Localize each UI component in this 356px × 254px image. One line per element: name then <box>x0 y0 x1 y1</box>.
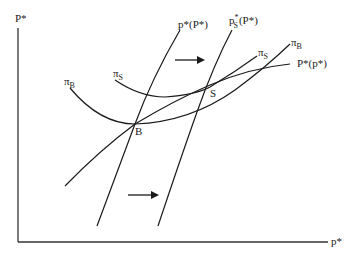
point-S-label: S <box>210 88 216 99</box>
pi-S-left-label: πS <box>113 68 123 79</box>
subscript: B <box>70 81 75 90</box>
label-sub: S <box>234 21 238 30</box>
subscript: B <box>297 42 302 51</box>
pi-symbol: π <box>64 75 70 87</box>
pi-S-right-label: πS <box>258 47 268 58</box>
point-B-label: B <box>135 126 142 137</box>
subscript: S <box>119 73 123 82</box>
p-S-star-of-P-star-label: p*S(P*) <box>229 15 262 26</box>
x-axis-label: p* <box>331 236 342 247</box>
P-star-of-p-star-label: P*(p*) <box>297 58 327 69</box>
pi-symbol: π <box>113 67 119 79</box>
pi-S-curve <box>115 56 257 97</box>
y-axis-label: P* <box>15 13 27 24</box>
p-star-of-P-star-label: p*(P*) <box>178 19 208 30</box>
pi-B-left-label: πB <box>64 76 75 87</box>
equilibrium-diagram <box>0 0 356 254</box>
label-rest: (P*) <box>239 14 258 26</box>
pi-symbol: π <box>258 46 264 58</box>
pi-B-right-label: πB <box>291 37 302 48</box>
pi-symbol: π <box>291 36 297 48</box>
subscript: S <box>264 52 268 61</box>
